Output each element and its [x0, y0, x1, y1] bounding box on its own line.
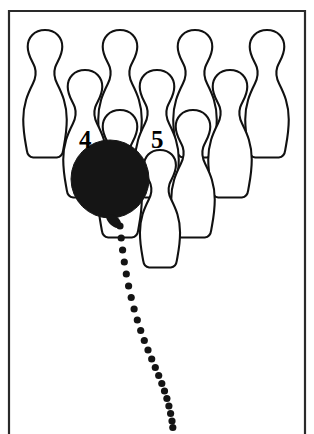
trail-dot-5 — [123, 270, 130, 277]
trail-dot-13 — [148, 355, 155, 362]
trail-dot-7 — [128, 294, 135, 301]
trail-dot-10 — [137, 327, 144, 334]
trail-dot-11 — [141, 337, 148, 344]
trail-dot-20 — [167, 410, 174, 417]
trail-dot-17 — [161, 387, 168, 394]
trail-dot-22 — [169, 424, 176, 431]
pin-back-4 — [245, 30, 289, 157]
trail-dot-12 — [144, 346, 151, 353]
trail-dot-9 — [134, 316, 141, 323]
trail-dot-19 — [165, 402, 172, 409]
trail-dot-1 — [116, 222, 123, 229]
pin-label-5: 5 — [151, 126, 164, 153]
pin-back-1 — [23, 30, 67, 157]
trail-dot-3 — [119, 246, 126, 253]
trail-dot-2 — [118, 234, 125, 241]
pin-mid-3 — [208, 70, 252, 197]
trail-dot-8 — [131, 305, 138, 312]
trail-dot-15 — [155, 372, 162, 379]
trail-dot-4 — [121, 258, 128, 265]
trail-dot-21 — [168, 417, 175, 424]
trail-dot-6 — [125, 282, 132, 289]
trail-dot-16 — [158, 380, 165, 387]
bowling-diagram-figure: 45 — [0, 0, 314, 434]
diagram-canvas: 45 — [0, 0, 314, 434]
trail-dot-14 — [152, 364, 159, 371]
pin-label-4: 4 — [79, 126, 92, 153]
trail-dot-18 — [163, 395, 170, 402]
